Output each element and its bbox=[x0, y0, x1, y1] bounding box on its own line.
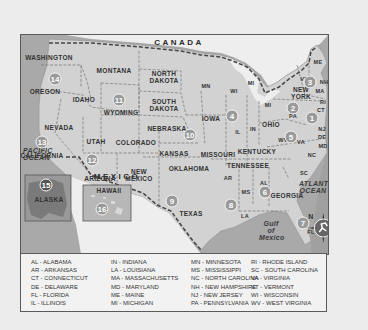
state-label-ca: CALIFORNIA bbox=[20, 152, 63, 159]
state-label-wi: WI bbox=[230, 88, 237, 95]
state-label-mt: MONTANA bbox=[97, 67, 132, 74]
legend-entry: WI - WISCONSIN bbox=[251, 291, 318, 299]
legend-entry: ME - MAINE bbox=[111, 291, 178, 299]
state-label-ok: OKLAHOMA bbox=[169, 165, 210, 172]
legend-entry: PA - PENNSYLVANIA bbox=[191, 299, 259, 307]
state-label-wa: WASHINGTON bbox=[25, 54, 73, 61]
state-label-oh: OHIO bbox=[262, 121, 280, 128]
legend-entry: LA - LOUISIANA bbox=[111, 266, 178, 274]
legend-entry: WV - WEST VIRGINIA bbox=[251, 299, 318, 307]
region-badge-4: 4 bbox=[226, 110, 239, 123]
region-badge-15: 15 bbox=[40, 179, 53, 192]
state-label-ar: AR bbox=[224, 175, 233, 182]
state-label-ut: UTAH bbox=[87, 138, 106, 145]
state-label-ga: GEORGIA bbox=[271, 192, 304, 199]
legend-entry: AR - ARKANSAS bbox=[31, 266, 88, 274]
state-label-nm: NEW MEXICO bbox=[125, 168, 152, 182]
state-label-hi: HAWAII bbox=[97, 187, 122, 194]
region-badge-5: 5 bbox=[285, 131, 298, 144]
region-badge-8: 8 bbox=[225, 199, 238, 212]
state-label-il: IL bbox=[235, 129, 241, 136]
state-label-tx: TEXAS bbox=[179, 210, 202, 217]
state-label-la: LA bbox=[241, 213, 249, 220]
legend-entry: NC - NORTH CAROLINA bbox=[191, 274, 259, 282]
region-badge-3: 3 bbox=[304, 76, 317, 89]
state-label-de: DE bbox=[318, 134, 326, 141]
state-label-wy: WYOMING bbox=[104, 109, 139, 116]
legend-column-2: IN - INDIANA LA - LOUISIANA MA - MASSACH… bbox=[111, 258, 178, 307]
state-label-sc: SC bbox=[300, 170, 308, 177]
state-label-tn: TENNESSEE bbox=[227, 162, 269, 169]
legend-entry: MI - MICHIGAN bbox=[111, 299, 178, 307]
state-label-mi_up: MI bbox=[248, 80, 255, 87]
state-label-ks: KANSAS bbox=[159, 150, 188, 157]
state-label-ma: MA bbox=[315, 88, 324, 95]
legend-entry: VA - VIRGINIA bbox=[251, 274, 318, 282]
region-badge-16: 16 bbox=[96, 203, 109, 216]
region-badge-14: 14 bbox=[49, 73, 62, 86]
state-label-ky: KENTUCKY bbox=[238, 148, 277, 155]
state-label-sd: SOUTH DAKOTA bbox=[149, 98, 178, 112]
legend-entry: MS - MISSISSIPPI bbox=[191, 266, 259, 274]
state-label-nd: NORTH DAKOTA bbox=[149, 70, 178, 84]
legend-entry: MD - MARYLAND bbox=[111, 283, 178, 291]
state-label-in: IN bbox=[250, 126, 256, 133]
state-label-nj: NJ bbox=[318, 126, 326, 133]
legend-entry: FL - FLORIDA bbox=[31, 291, 88, 299]
compass-icon bbox=[308, 213, 329, 243]
state-label-az: ARIZONA bbox=[84, 175, 116, 182]
legend-entry: VT - VERMONT bbox=[251, 283, 318, 291]
legend-entry: IN - INDIANA bbox=[111, 258, 178, 266]
region-badge-11: 11 bbox=[113, 94, 126, 107]
legend-entry: DE - DELAWARE bbox=[31, 283, 88, 291]
state-label-nc: NC bbox=[308, 152, 317, 159]
region-badge-2: 2 bbox=[287, 102, 300, 115]
state-label-ia: IOWA bbox=[202, 115, 221, 122]
compass-rose: N bbox=[308, 213, 313, 220]
region-badge-9: 9 bbox=[166, 195, 179, 208]
gulf-of-mexico-label: Gulf of Mexico bbox=[259, 220, 283, 241]
region-badge-12: 12 bbox=[86, 154, 99, 167]
state-label-me: ME bbox=[314, 59, 323, 66]
legend-entry: NH - NEW HAMPSHIRE bbox=[191, 283, 259, 291]
state-label-nv: NEVADA bbox=[45, 124, 74, 131]
legend-column-3: MN - MINNESOTA MS - MISSISSIPPI NC - NOR… bbox=[191, 258, 259, 307]
region-badge-10: 10 bbox=[184, 129, 197, 142]
legend-entry: SC - SOUTH CAROLINA bbox=[251, 266, 318, 274]
state-label-ne: NEBRASKA bbox=[147, 125, 186, 132]
legend-column-4: RI - RHODE ISLAND SC - SOUTH CAROLINA VA… bbox=[251, 258, 318, 307]
state-label-md: MD bbox=[318, 143, 327, 150]
state-label-nh: NH bbox=[320, 79, 329, 86]
state-label-id: IDAHO bbox=[73, 96, 95, 103]
state-label-ri: RI bbox=[320, 99, 326, 106]
legend-entry: IL - ILLINOIS bbox=[31, 299, 88, 307]
canada-label: CANADA bbox=[154, 39, 204, 46]
state-label-or: OREGON bbox=[30, 88, 61, 95]
state-label-co: COLORADO bbox=[116, 139, 156, 146]
region-badge-6: 6 bbox=[259, 186, 272, 199]
state-abbreviation-legend: AL - ALABAMA AR - ARKANSAS CT - CONNECTI… bbox=[20, 253, 327, 312]
state-label-mn: MN bbox=[201, 83, 210, 90]
state-label-mi: MI bbox=[265, 102, 272, 109]
legend-entry: MN - MINNESOTA bbox=[191, 258, 259, 266]
legend-entry: AL - ALABAMA bbox=[31, 258, 88, 266]
state-label-va: VA bbox=[297, 139, 305, 146]
state-label-ak: ALASKA bbox=[35, 196, 64, 203]
legend-entry: MA - MASSACHUSETTS bbox=[111, 274, 178, 282]
state-label-ct: CT bbox=[317, 107, 325, 114]
state-label-mo: MISSOURI bbox=[201, 151, 236, 158]
us-regions-map: CANADA MEXICO PACIFIC OCEAN ATLANTIC OCE… bbox=[20, 34, 329, 255]
region-badge-1: 1 bbox=[306, 112, 319, 125]
legend-entry: NJ - NEW JERSEY bbox=[191, 291, 259, 299]
legend-entry: RI - RHODE ISLAND bbox=[251, 258, 318, 266]
region-badge-13: 13 bbox=[36, 136, 49, 149]
state-label-ms: MS bbox=[242, 189, 251, 196]
legend-entry: CT - CONNECTICUT bbox=[31, 274, 88, 282]
legend-column-1: AL - ALABAMA AR - ARKANSAS CT - CONNECTI… bbox=[31, 258, 88, 307]
